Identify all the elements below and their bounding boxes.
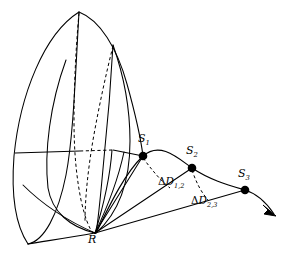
chord-right-solid bbox=[113, 150, 143, 156]
label-s1-subscript: 1 bbox=[146, 139, 150, 147]
label-source-s3: S3 bbox=[238, 168, 250, 182]
label-delta-d-12: ΔD1,2 bbox=[158, 176, 184, 190]
label-s3-base: S bbox=[238, 167, 246, 180]
hidden-back-fold-right bbox=[85, 46, 113, 222]
label-s2-subscript: 2 bbox=[194, 151, 198, 159]
label-receiver-r: R bbox=[88, 234, 96, 245]
label-s2-base: S bbox=[186, 144, 194, 157]
shell-left-lobe-edge bbox=[47, 60, 95, 233]
hidden-horizontal-chord bbox=[80, 150, 113, 151]
shell-left-inner-rim bbox=[28, 12, 79, 244]
label-receiver-text: R bbox=[88, 233, 96, 246]
ray-path-arrowhead bbox=[263, 205, 276, 216]
label-delta12-base: D bbox=[166, 175, 174, 187]
point-marker-s2 bbox=[188, 164, 197, 173]
point-marker-s1 bbox=[139, 152, 148, 161]
label-s1-base: S bbox=[138, 132, 146, 145]
ray-geometry-diagram bbox=[0, 0, 286, 262]
label-delta12-subscript: 1,2 bbox=[174, 182, 184, 190]
label-source-s2: S2 bbox=[186, 145, 198, 159]
point-marker-s3 bbox=[241, 186, 250, 195]
label-delta23-symbol: Δ bbox=[191, 194, 199, 206]
shell-front-sweep-a bbox=[23, 185, 95, 233]
label-delta12-symbol: Δ bbox=[158, 175, 166, 187]
label-delta-d-23: ΔD2,3 bbox=[191, 195, 217, 209]
wavefront-shell-group bbox=[13, 12, 143, 244]
label-s3-subscript: 3 bbox=[246, 174, 250, 182]
shell-left-outer-rim bbox=[13, 12, 79, 244]
figure-container: R S1 S2 S3 ΔD1,2 ΔD2,3 bbox=[0, 0, 286, 262]
label-delta23-base: D bbox=[199, 194, 207, 206]
label-source-s1: S1 bbox=[138, 133, 150, 147]
label-delta23-subscript: 2,3 bbox=[207, 201, 217, 209]
